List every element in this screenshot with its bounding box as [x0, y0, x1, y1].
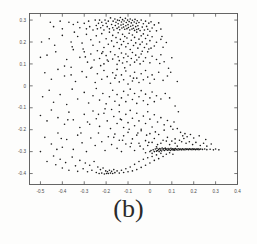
svg-text:0: 0 — [149, 189, 152, 194]
svg-text:-0.5: -0.5 — [36, 189, 44, 194]
data-points — [40, 17, 220, 175]
svg-text:0.2: 0.2 — [191, 189, 198, 194]
svg-text:-0.3: -0.3 — [18, 149, 26, 154]
svg-text:0.3: 0.3 — [212, 189, 219, 194]
scatter-figure: -0.5-0.4-0.3-0.2-0.100.10.20.30.40.30.20… — [0, 0, 257, 244]
svg-text:0.4: 0.4 — [234, 189, 241, 194]
tick-labels: -0.5-0.4-0.3-0.2-0.100.10.20.30.40.30.20… — [18, 18, 241, 194]
svg-text:0: 0 — [23, 84, 26, 89]
svg-text:0.3: 0.3 — [20, 18, 27, 23]
svg-text:0.2: 0.2 — [20, 40, 27, 45]
svg-text:0.1: 0.1 — [20, 62, 27, 67]
svg-text:-0.2: -0.2 — [18, 127, 26, 132]
figure-caption: (b) — [0, 196, 257, 222]
svg-text:-0.4: -0.4 — [18, 171, 26, 176]
svg-text:-0.4: -0.4 — [58, 189, 66, 194]
svg-text:0.1: 0.1 — [169, 189, 176, 194]
svg-text:-0.1: -0.1 — [18, 105, 26, 110]
svg-text:-0.2: -0.2 — [102, 189, 110, 194]
svg-text:-0.3: -0.3 — [80, 189, 88, 194]
